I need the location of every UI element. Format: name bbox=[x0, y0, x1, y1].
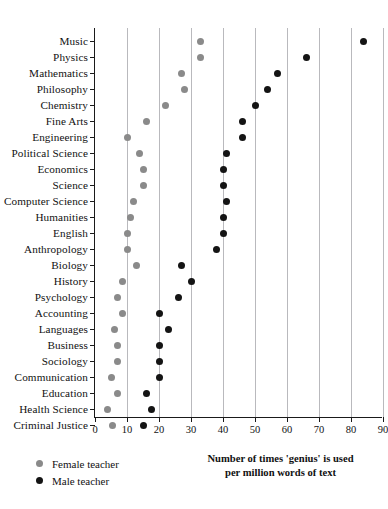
category-row: History bbox=[95, 274, 382, 290]
category-row: Accounting bbox=[95, 306, 382, 322]
female-dot-icon bbox=[36, 460, 43, 467]
data-point bbox=[162, 102, 169, 109]
data-point bbox=[213, 246, 220, 253]
data-point bbox=[156, 374, 163, 381]
data-point bbox=[148, 406, 155, 413]
data-point bbox=[239, 134, 246, 141]
category-row: Sociology bbox=[95, 354, 382, 370]
plot-area: 0102030405060708090MusicPhysicsMathemati… bbox=[94, 28, 382, 418]
data-point bbox=[133, 262, 140, 269]
category-label: Criminal Justice bbox=[13, 417, 88, 433]
category-label: Accounting bbox=[35, 305, 88, 321]
category-row: Mathematics bbox=[95, 66, 382, 82]
data-point bbox=[220, 166, 227, 173]
x-axis-tick bbox=[383, 417, 384, 422]
data-point bbox=[143, 390, 150, 397]
data-point bbox=[108, 374, 115, 381]
data-point bbox=[220, 214, 227, 221]
category-row: Chemistry bbox=[95, 98, 382, 114]
category-label: Sociology bbox=[42, 353, 88, 369]
category-row: Economics bbox=[95, 162, 382, 178]
y-axis-tick bbox=[90, 265, 95, 266]
category-row: Political Science bbox=[95, 146, 382, 162]
category-label: Education bbox=[42, 385, 88, 401]
data-point bbox=[223, 150, 230, 157]
category-row: Science bbox=[95, 178, 382, 194]
y-axis-tick bbox=[90, 41, 95, 42]
y-axis-tick bbox=[90, 201, 95, 202]
gridline bbox=[383, 28, 384, 417]
legend-label: Male teacher bbox=[52, 475, 109, 487]
y-axis-tick bbox=[90, 249, 95, 250]
category-label: Music bbox=[60, 33, 88, 49]
data-point bbox=[111, 326, 118, 333]
male-dot-icon bbox=[36, 477, 43, 484]
y-axis-tick bbox=[90, 297, 95, 298]
legend-label: Female teacher bbox=[52, 458, 119, 470]
y-axis-tick bbox=[90, 329, 95, 330]
category-label: Political Science bbox=[11, 145, 88, 161]
data-point bbox=[178, 70, 185, 77]
category-label: Economics bbox=[37, 161, 88, 177]
data-point bbox=[360, 38, 367, 45]
y-axis-tick bbox=[90, 169, 95, 170]
y-axis-tick bbox=[90, 409, 95, 410]
data-point bbox=[114, 358, 121, 365]
x-axis-title-line-1: Number of times 'genius' is used bbox=[178, 452, 383, 466]
category-label: Fine Arts bbox=[46, 113, 88, 129]
y-axis-tick bbox=[90, 233, 95, 234]
data-point bbox=[124, 134, 131, 141]
category-row: English bbox=[95, 226, 382, 242]
data-point bbox=[143, 118, 150, 125]
data-point bbox=[156, 342, 163, 349]
y-axis-tick bbox=[90, 361, 95, 362]
data-point bbox=[114, 390, 121, 397]
data-point bbox=[130, 198, 137, 205]
category-row: Psychology bbox=[95, 290, 382, 306]
legend-item: Female teacher bbox=[36, 455, 186, 472]
data-point bbox=[239, 118, 246, 125]
data-point bbox=[140, 182, 147, 189]
data-point bbox=[124, 246, 131, 253]
data-point bbox=[156, 310, 163, 317]
x-axis-title-line-2: per million words of text bbox=[178, 466, 383, 480]
data-point bbox=[197, 54, 204, 61]
data-point bbox=[156, 358, 163, 365]
legend-item: Male teacher bbox=[36, 472, 186, 489]
category-label: Business bbox=[47, 337, 88, 353]
category-row: Engineering bbox=[95, 130, 382, 146]
y-axis-tick bbox=[90, 105, 95, 106]
category-label: Engineering bbox=[32, 129, 88, 145]
data-point bbox=[175, 294, 182, 301]
category-label: Anthropology bbox=[24, 241, 88, 257]
y-axis-tick bbox=[90, 313, 95, 314]
category-row: Fine Arts bbox=[95, 114, 382, 130]
category-row: Anthropology bbox=[95, 242, 382, 258]
category-row: Criminal Justice bbox=[95, 418, 382, 434]
chart-legend: Female teacherMale teacher bbox=[36, 455, 186, 489]
category-label: History bbox=[54, 273, 88, 289]
y-axis-tick bbox=[90, 121, 95, 122]
category-label: Computer Science bbox=[4, 193, 88, 209]
y-axis-tick bbox=[90, 153, 95, 154]
category-row: Philosophy bbox=[95, 82, 382, 98]
category-label: Chemistry bbox=[40, 97, 88, 113]
category-row: Business bbox=[95, 338, 382, 354]
category-row: Computer Science bbox=[95, 194, 382, 210]
category-label: Mathematics bbox=[29, 65, 88, 81]
data-point bbox=[223, 198, 230, 205]
category-label: Health Science bbox=[19, 401, 88, 417]
y-axis-tick bbox=[90, 89, 95, 90]
category-row: Music bbox=[95, 34, 382, 50]
y-axis-tick bbox=[90, 217, 95, 218]
y-axis-tick bbox=[90, 345, 95, 346]
category-label: English bbox=[53, 225, 88, 241]
category-label: Physics bbox=[53, 49, 88, 65]
category-label: Languages bbox=[39, 321, 88, 337]
y-axis-tick bbox=[90, 185, 95, 186]
y-axis-tick bbox=[90, 281, 95, 282]
data-point bbox=[140, 166, 147, 173]
category-label: Psychology bbox=[35, 289, 88, 305]
data-point bbox=[136, 150, 143, 157]
category-label: Biology bbox=[51, 257, 88, 273]
